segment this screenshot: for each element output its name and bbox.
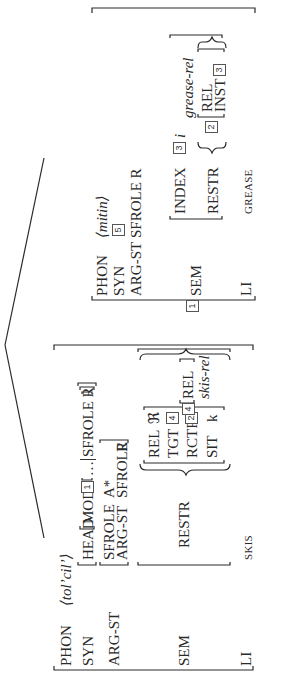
right-index-var: i bbox=[172, 134, 188, 138]
right-argst-value: SFROLE R bbox=[128, 168, 144, 238]
right-sem-label: SEM bbox=[188, 265, 204, 296]
syn-label: SYN bbox=[80, 636, 96, 666]
restr-rel-value: ℜ bbox=[146, 412, 162, 424]
right-phon-label: PHON bbox=[94, 255, 110, 296]
mod-ellipsis: … bbox=[80, 461, 96, 476]
tree-lines-and-brackets bbox=[0, 0, 299, 678]
restr-rctr-label: RCTR bbox=[184, 419, 200, 458]
li-value: SKIS bbox=[240, 535, 256, 560]
right-index-label: INDEX bbox=[172, 167, 188, 214]
argst-label: ARG-ST bbox=[106, 612, 122, 666]
right-index-tag: 3 bbox=[173, 142, 186, 154]
left-branch-line bbox=[5, 345, 44, 538]
restr-rel-label: REL bbox=[146, 430, 162, 458]
inner-argst-sfrole-value: R bbox=[114, 442, 130, 452]
restr-item2-rel-value: skis-rel bbox=[196, 355, 212, 399]
right-daughter-tag: 1 bbox=[186, 300, 199, 312]
phon-label: PHON bbox=[58, 625, 74, 666]
mod-sfrole: SFROLE R bbox=[80, 387, 96, 460]
right-syn-label: SYN bbox=[111, 266, 127, 296]
right-restr-label: RESTR bbox=[205, 167, 221, 214]
restr-label: RESTR bbox=[176, 501, 192, 548]
right-rel-value: grease-rel bbox=[180, 57, 196, 118]
right-phon-value: ⟨mitin⟩ bbox=[94, 195, 110, 238]
right-li-value: GREASE bbox=[240, 169, 256, 214]
right-restr-tag: 2 bbox=[205, 121, 218, 133]
restr-sit-value: k bbox=[204, 415, 220, 423]
restr-item2-tag: 4 bbox=[182, 403, 195, 415]
right-inst-tag: 3 bbox=[213, 64, 226, 76]
inner-argst-label: ARG-ST bbox=[114, 506, 130, 560]
restr-sit-label: SIT bbox=[204, 436, 220, 459]
right-syn-tag: 5 bbox=[112, 224, 125, 236]
phon-value: ⟨tol’cil’⟩ bbox=[58, 553, 74, 606]
right-branch-line bbox=[5, 158, 44, 345]
hpsg-tree-diagram: PHON ⟨tol’cil’⟩ SYN HEAD MOD 1 … SFROLE … bbox=[0, 0, 299, 678]
right-argst-label: ARG-ST bbox=[128, 242, 144, 296]
mod-label: MOD bbox=[80, 489, 96, 524]
head-label: HEAD bbox=[80, 518, 96, 560]
li-label: LI bbox=[238, 652, 254, 666]
right-li-label: LI bbox=[238, 282, 254, 296]
restr-tgt-label: TGT bbox=[165, 429, 181, 458]
right-inst-label: INST bbox=[212, 79, 228, 112]
mod-tag: 1 bbox=[81, 481, 94, 493]
sem-label: SEM bbox=[176, 635, 192, 666]
restr-item2-rel-label: REL bbox=[180, 371, 196, 399]
restr-tgt-tag: 4 bbox=[166, 412, 179, 424]
